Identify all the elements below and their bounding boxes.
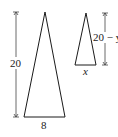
large-height-label: 20 bbox=[10, 57, 22, 69]
small-height-label: 20 − y bbox=[93, 31, 118, 43]
large-base-label: 8 bbox=[41, 119, 47, 131]
large-triangle bbox=[24, 12, 65, 117]
small-base-label: x bbox=[82, 65, 88, 77]
similar-triangles-diagram: 20 8 20 − y x bbox=[0, 0, 118, 137]
